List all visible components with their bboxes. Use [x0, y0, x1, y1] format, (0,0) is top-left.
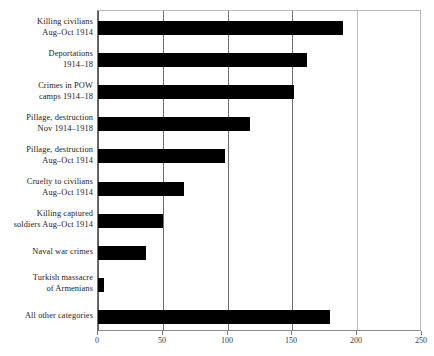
category-label-line: Aug–Oct 1914 — [0, 156, 93, 167]
bar — [98, 149, 225, 163]
category-label-line: Pillage, destruction — [0, 145, 93, 156]
bar — [98, 21, 343, 35]
bar — [98, 310, 330, 324]
category-label-column: Killing civiliansAug–Oct 1914Deportation… — [0, 10, 93, 331]
category-label: Crimes in POWcamps 1914–18 — [0, 81, 93, 102]
category-label-line: Aug–Oct 1914 — [0, 28, 93, 39]
category-label: Killing capturedsoldiers Aug–Oct 1914 — [0, 209, 93, 230]
bar — [98, 214, 163, 228]
gridline-200 — [357, 11, 358, 330]
bar — [98, 278, 104, 292]
x-tick-label-250: 250 — [415, 336, 427, 345]
x-tick-100 — [227, 331, 228, 335]
category-label-line: Deportations — [0, 49, 93, 60]
x-tick-250 — [421, 331, 422, 335]
category-label-line: Cruelty to civilians — [0, 177, 93, 188]
x-tick-150 — [291, 331, 292, 335]
category-label-line: 1914–18 — [0, 60, 93, 71]
category-label: Naval war crimes — [0, 247, 93, 258]
x-tick-label-100: 100 — [221, 336, 233, 345]
plot-area — [97, 10, 421, 331]
category-label: Turkish massacreof Armenians — [0, 273, 93, 294]
category-label: Pillage, destructionNov 1914–1918 — [0, 113, 93, 134]
x-tick-label-150: 150 — [285, 336, 297, 345]
x-tick-200 — [356, 331, 357, 335]
category-label: Killing civiliansAug–Oct 1914 — [0, 17, 93, 38]
x-tick-0 — [97, 331, 98, 335]
bar — [98, 85, 294, 99]
x-tick-label-50: 50 — [158, 336, 166, 345]
category-label-line: Crimes in POW — [0, 81, 93, 92]
bar — [98, 117, 250, 131]
category-label-line: soldiers Aug–Oct 1914 — [0, 220, 93, 231]
horizontal-bar-chart: Killing civiliansAug–Oct 1914Deportation… — [0, 0, 434, 356]
x-tick-label-200: 200 — [350, 336, 362, 345]
category-label-line: Pillage, destruction — [0, 113, 93, 124]
bar — [98, 53, 307, 67]
category-label: All other categories — [0, 311, 93, 322]
bar — [98, 182, 184, 196]
category-label-line: All other categories — [0, 311, 93, 322]
category-label-line: Aug–Oct 1914 — [0, 188, 93, 199]
category-label-line: Turkish massacre — [0, 273, 93, 284]
category-label-line: Killing captured — [0, 209, 93, 220]
category-label: Cruelty to civiliansAug–Oct 1914 — [0, 177, 93, 198]
x-tick-50 — [162, 331, 163, 335]
category-label-line: Killing civilians — [0, 17, 93, 28]
category-label-line: Naval war crimes — [0, 247, 93, 258]
category-label: Pillage, destructionAug–Oct 1914 — [0, 145, 93, 166]
x-axis: 050100150200250 — [97, 331, 421, 355]
category-label-line: of Armenians — [0, 284, 93, 295]
category-label: Deportations1914–18 — [0, 49, 93, 70]
category-label-line: camps 1914–18 — [0, 92, 93, 103]
category-label-line: Nov 1914–1918 — [0, 124, 93, 135]
bar — [98, 246, 146, 260]
x-tick-label-0: 0 — [95, 336, 99, 345]
